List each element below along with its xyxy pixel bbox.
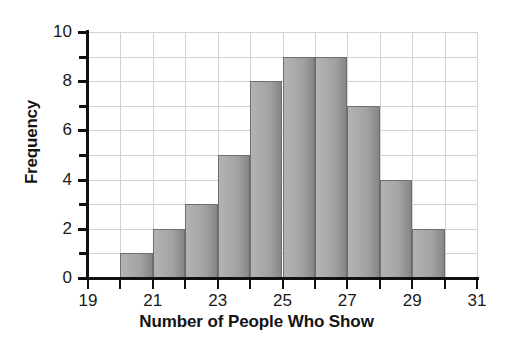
- y-axis-tick-label: 0: [26, 268, 72, 288]
- y-axis-tick-major: [78, 31, 87, 34]
- x-axis-tick: [411, 280, 413, 289]
- x-axis-tick: [314, 280, 316, 289]
- plot-area: [88, 32, 477, 278]
- y-axis-tick-label: 4: [26, 170, 72, 190]
- gridline-vertical: [445, 32, 446, 278]
- histogram-bar: [347, 106, 379, 278]
- x-axis-tick-label: 19: [63, 291, 113, 311]
- x-axis-tick-label: 25: [258, 291, 308, 311]
- x-axis-tick-label: 29: [387, 291, 437, 311]
- x-axis-tick: [444, 280, 446, 289]
- x-axis-tick-label: 31: [452, 291, 502, 311]
- gridline-vertical: [477, 32, 478, 278]
- histogram-bar: [218, 155, 250, 278]
- gridline-vertical: [120, 32, 121, 278]
- x-axis-title: Number of People Who Show: [0, 312, 513, 332]
- x-axis-tick: [346, 280, 348, 289]
- histogram-bar: [283, 57, 315, 278]
- y-axis-tick-major: [78, 179, 87, 182]
- y-axis-tick-label: 6: [26, 120, 72, 140]
- y-axis-tick-label: 8: [26, 71, 72, 91]
- y-axis-tick-major: [78, 277, 87, 280]
- x-axis-tick-label: 23: [193, 291, 243, 311]
- histogram-bar: [153, 229, 185, 278]
- y-axis-tick-minor: [79, 56, 87, 59]
- x-axis-tick-label: 27: [322, 291, 372, 311]
- histogram-bar: [412, 229, 444, 278]
- x-axis-tick: [217, 280, 219, 289]
- x-axis-tick-label: 21: [128, 291, 178, 311]
- histogram-bar: [380, 180, 412, 278]
- x-axis-tick: [282, 280, 284, 289]
- y-axis-tick-major: [78, 228, 87, 231]
- histogram-bar: [315, 57, 347, 278]
- y-axis-tick-major: [78, 80, 87, 83]
- x-axis-tick: [119, 280, 121, 289]
- histogram-chart: Frequency Number of People Who Show 0246…: [0, 0, 513, 353]
- y-axis-tick-minor: [79, 252, 87, 255]
- x-axis-tick: [184, 280, 186, 289]
- y-axis-tick-minor: [79, 203, 87, 206]
- x-axis-tick: [476, 280, 478, 289]
- histogram-bar: [185, 204, 217, 278]
- x-axis-tick: [152, 280, 154, 289]
- y-axis-tick-major: [78, 129, 87, 132]
- y-axis-tick-label: 10: [26, 22, 72, 42]
- histogram-bar: [120, 253, 152, 278]
- y-axis-tick-label: 2: [26, 219, 72, 239]
- y-axis-tick-minor: [79, 105, 87, 108]
- x-axis-tick: [87, 280, 89, 289]
- x-axis-tick: [379, 280, 381, 289]
- y-axis-tick-minor: [79, 154, 87, 157]
- y-axis-title: Frequency: [22, 72, 42, 212]
- x-axis-tick: [249, 280, 251, 289]
- histogram-bar: [250, 81, 282, 278]
